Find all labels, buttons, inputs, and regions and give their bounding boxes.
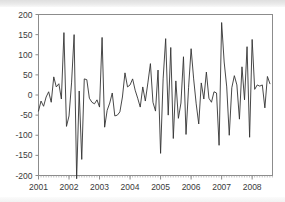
y-tick-label: 150 <box>18 30 32 40</box>
chart-figure: 200150100500-50-100-150-200 200120022003… <box>0 0 285 202</box>
line-chart: 200150100500-50-100-150-200 200120022003… <box>0 0 285 202</box>
x-tick-label: 2008 <box>243 182 262 192</box>
y-tick-label: 100 <box>18 50 32 60</box>
y-tick-label: -150 <box>15 150 32 160</box>
y-tick-label: -100 <box>15 130 32 140</box>
y-tick-label: -200 <box>15 171 32 181</box>
y-tick-label: 0 <box>28 90 33 100</box>
x-tick-label: 2007 <box>212 182 231 192</box>
x-tick-label: 2006 <box>182 182 201 192</box>
x-tick-label: 2004 <box>121 182 140 192</box>
x-tick-label: 2005 <box>151 182 170 192</box>
x-tick-label: 2003 <box>90 182 109 192</box>
y-tick-label: -50 <box>20 110 33 120</box>
x-tick-label: 2002 <box>60 182 79 192</box>
x-axis-tick-labels: 20012002200320042005200620072008 <box>29 182 262 192</box>
x-tick-label: 2001 <box>29 182 48 192</box>
y-tick-label: 50 <box>23 70 33 80</box>
y-axis-tick-labels: 200150100500-50-100-150-200 <box>15 10 32 181</box>
y-tick-label: 200 <box>18 10 32 20</box>
